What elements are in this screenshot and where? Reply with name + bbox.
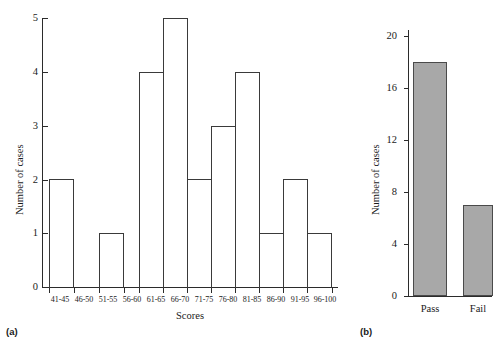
panel-a-x-tick xyxy=(163,288,164,293)
histogram-bar xyxy=(139,72,164,288)
histogram-bar xyxy=(187,179,212,288)
histogram-bar xyxy=(259,233,284,288)
panel-a-x-tick xyxy=(283,288,284,293)
histogram-bar xyxy=(283,179,308,288)
panel-a-y-tick xyxy=(43,180,48,181)
panel-a-y-tick-label: 5 xyxy=(18,13,38,23)
panel-a-y-tick-label: 3 xyxy=(18,121,38,131)
panel-b-y-tick-label: 4 xyxy=(377,239,397,249)
panel-a-x-tick xyxy=(211,288,212,293)
histogram-bar xyxy=(49,179,74,288)
panel-b-y-tick-label: 8 xyxy=(377,187,397,197)
panel-b-y-axis-title: Number of cases xyxy=(370,144,381,215)
histogram-bar xyxy=(211,126,236,288)
panel-b-y-tick-label: 0 xyxy=(377,291,397,301)
panel-b-y-tick xyxy=(404,36,409,37)
histogram-bar xyxy=(163,18,188,288)
panel-b-y-tick xyxy=(404,296,409,297)
panel-a-x-tick xyxy=(74,288,75,293)
panel-a-x-tick xyxy=(187,288,188,293)
panel-a-x-tick xyxy=(235,288,236,293)
panel-a-x-tick xyxy=(332,288,333,293)
panel-b-y-tick-label: 16 xyxy=(377,83,397,93)
panel-b-y-tick xyxy=(404,140,409,141)
panel-a-x-tick xyxy=(307,288,308,293)
panel-b-tag: (b) xyxy=(360,326,372,337)
panel-a-x-tick xyxy=(99,288,100,293)
figure-two-panel-charts: Number of cases 5 4 3 2 1 0 xyxy=(0,0,503,342)
panel-a-x-tick xyxy=(139,288,140,293)
panel-b-x-axis-line xyxy=(408,296,492,297)
panel-a-x-tick xyxy=(49,288,50,293)
bar-pass xyxy=(413,62,447,296)
bar-fail xyxy=(463,205,493,296)
panel-b-y-axis-line xyxy=(408,30,409,296)
histogram-bar xyxy=(307,233,332,288)
panel-a-y-tick xyxy=(43,18,48,19)
panel-b-y-tick-label: 12 xyxy=(377,135,397,145)
panel-a-x-tick xyxy=(259,288,260,293)
panel-a-y-tick xyxy=(43,72,48,73)
panel-b-y-tick xyxy=(404,192,409,193)
panel-a-y-tick-label: 4 xyxy=(18,67,38,77)
panel-a-histogram: Number of cases 5 4 3 2 1 0 xyxy=(0,0,355,342)
panel-b-category-label-pass: Pass xyxy=(410,303,450,314)
histogram-bar xyxy=(235,72,260,288)
panel-b-y-tick-label: 20 xyxy=(377,31,397,41)
panel-a-x-tick-label: 96-100 xyxy=(305,295,345,304)
panel-a-x-axis-title: Scores xyxy=(145,310,235,321)
panel-b-y-tick xyxy=(404,244,409,245)
panel-b-bar-chart: Number of cases 20 16 12 8 4 0 Pass Fail… xyxy=(355,0,503,342)
panel-a-y-tick-label: 2 xyxy=(18,175,38,185)
panel-a-y-axis-line xyxy=(42,18,43,288)
histogram-bar xyxy=(99,233,124,288)
panel-b-y-tick xyxy=(404,88,409,89)
panel-a-y-tick xyxy=(43,126,48,127)
panel-a-tag: (a) xyxy=(6,326,18,337)
panel-a-y-tick-label: 0 xyxy=(18,282,38,292)
panel-b-category-label-fail: Fail xyxy=(458,303,498,314)
panel-a-y-tick xyxy=(43,233,48,234)
panel-a-y-tick-label: 1 xyxy=(18,228,38,238)
panel-a-x-tick xyxy=(124,288,125,293)
